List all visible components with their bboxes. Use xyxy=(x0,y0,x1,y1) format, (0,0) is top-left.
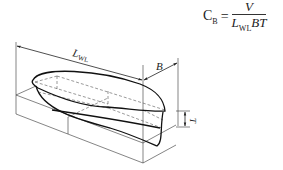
beam-label: B xyxy=(156,60,163,72)
hidden-lines xyxy=(35,76,165,128)
hull-block-diagram: LWL B T xyxy=(0,0,283,170)
draft-label: T xyxy=(188,118,198,124)
